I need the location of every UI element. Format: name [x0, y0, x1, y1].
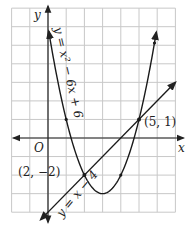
curve-point — [119, 174, 122, 177]
y-axis-label: y — [33, 8, 41, 22]
x-axis-label: x — [178, 141, 185, 155]
line-curve — [41, 82, 176, 219]
curve-point — [65, 118, 68, 121]
intersection-point — [137, 117, 141, 121]
intersection-label-2: (5, 1) — [144, 115, 176, 129]
graph-canvas: y x O (2, −2) (5, 1) y = x² − 6x + 6 y =… — [0, 0, 190, 244]
intersection-label-1: (2, −2) — [18, 165, 60, 179]
curve-point — [153, 41, 156, 44]
origin-label: O — [34, 141, 44, 155]
